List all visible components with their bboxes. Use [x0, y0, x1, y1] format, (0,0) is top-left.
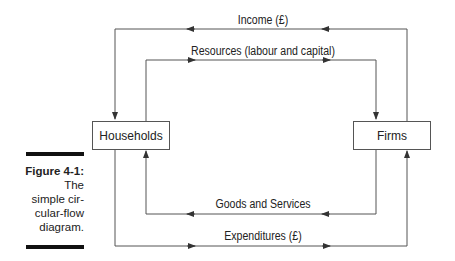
income-label: Income (£) [223, 13, 302, 27]
resources-label: Resources (labour and capital) [179, 44, 346, 58]
resources-flow-line [146, 60, 376, 121]
caption-bottom-bar [26, 245, 84, 249]
households-label: Households [99, 129, 162, 143]
figure-label: Figure 4-1: [10, 164, 84, 178]
caption-line: The [10, 178, 84, 192]
caption-top-bar [26, 152, 84, 156]
caption-line: diagram. [10, 220, 84, 234]
households-node: Households [92, 121, 170, 150]
expenditures-label: Expenditures (£) [206, 229, 320, 243]
figure-caption: Figure 4-1: The simple cir- cular-flow d… [10, 164, 84, 234]
firms-label: Firms [377, 129, 407, 143]
income-flow-line [115, 29, 407, 121]
firms-node: Firms [353, 121, 431, 150]
goods-label: Goods and Services [197, 197, 329, 211]
caption-line: cular-flow [10, 206, 84, 220]
caption-line: simple cir- [10, 192, 84, 206]
